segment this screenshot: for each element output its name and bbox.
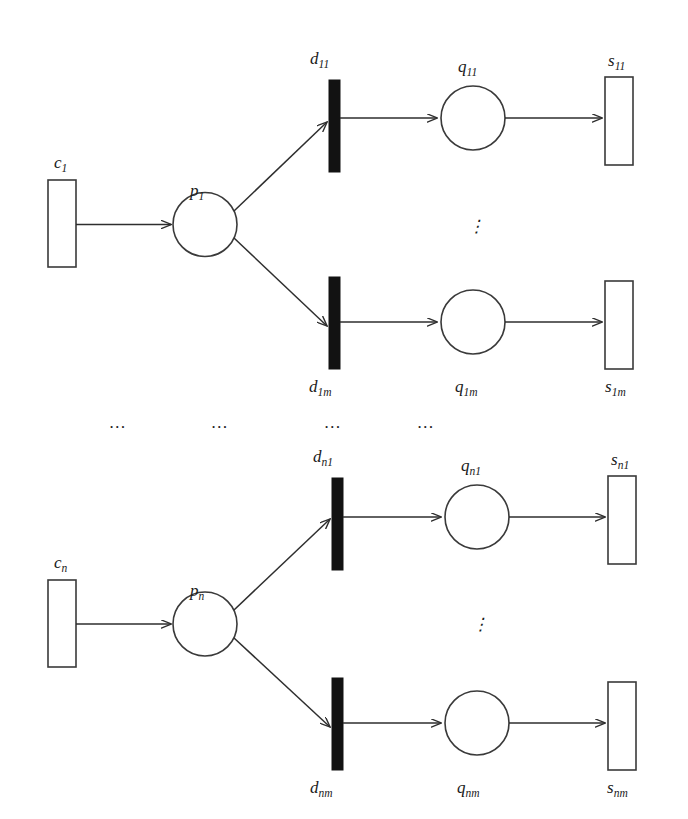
horizontal-ellipsis-1: … (110, 413, 127, 432)
label-dn1: dn1 (313, 447, 333, 468)
place-pn[interactable] (173, 592, 237, 656)
label-s11: s11 (608, 51, 625, 72)
arc-p1-to-d11 (234, 122, 327, 211)
transition-dnm[interactable] (332, 678, 343, 770)
label-qn1: qn1 (461, 456, 481, 477)
horizontal-ellipsis-3: … (325, 413, 342, 432)
place-qn1[interactable] (445, 485, 509, 549)
arc-pn-to-dnm (234, 638, 330, 727)
vertical-ellipsis-bottom: ⋮ (472, 615, 489, 634)
vertical-ellipsis-top: ⋮ (468, 217, 485, 236)
horizontal-ellipsis-4: … (418, 413, 435, 432)
label-d1m: d1m (309, 377, 332, 398)
horizontal-ellipsis-2: … (212, 413, 229, 432)
arc-p1-to-d1m (234, 238, 327, 326)
place-q1m[interactable] (441, 290, 505, 354)
label-q1m: q1m (455, 377, 478, 398)
label-qnm: qnm (457, 778, 480, 799)
transition-d11[interactable] (329, 80, 340, 172)
arc-pn-to-dn1 (234, 519, 330, 610)
resource-box-snm[interactable] (608, 682, 636, 770)
place-q11[interactable] (441, 86, 505, 150)
label-q11: q11 (458, 57, 477, 78)
label-s1m: s1m (605, 377, 626, 398)
transition-d1m[interactable] (329, 277, 340, 369)
resource-box-cn[interactable] (48, 580, 76, 667)
resource-box-c1[interactable] (48, 180, 76, 267)
resource-box-s1m[interactable] (605, 281, 633, 369)
label-d11: d11 (310, 49, 329, 70)
transition-dn1[interactable] (332, 478, 343, 570)
label-sn1: sn1 (611, 450, 629, 471)
label-c1: c1 (54, 153, 67, 174)
label-pn: pn (189, 581, 205, 602)
resource-box-sn1[interactable] (608, 476, 636, 564)
petri-net-diagram: c1 p1 d11 q11 s11 ⋮ d1m q1m (0, 0, 688, 819)
label-cn: cn (54, 553, 68, 574)
place-p1[interactable] (173, 193, 237, 257)
label-p1: p1 (189, 181, 204, 202)
diagram-canvas: c1 p1 d11 q11 s11 ⋮ d1m q1m (0, 0, 688, 819)
label-dnm: dnm (310, 778, 333, 799)
resource-box-s11[interactable] (605, 77, 633, 165)
place-qnm[interactable] (445, 691, 509, 755)
label-snm: snm (607, 778, 628, 799)
